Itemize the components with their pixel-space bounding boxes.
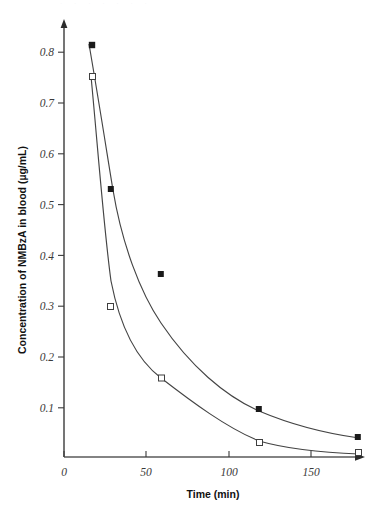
data-point-open <box>356 450 362 456</box>
y-tick-label: 0.1 <box>40 402 54 414</box>
open-square-markers <box>90 74 362 456</box>
data-point-open <box>257 440 263 446</box>
filled-square-markers <box>89 42 361 440</box>
data-point-open <box>90 74 96 80</box>
data-point-filled <box>256 406 262 412</box>
y-axis-title: Concentration of NMBzA in blood (µg/mL) <box>16 146 28 354</box>
y-tick-label: 0.6 <box>40 148 55 160</box>
x-axis-ticks: 0 50 100 150 <box>61 451 320 478</box>
filled-series-fit-curve <box>89 44 359 438</box>
data-point-filled <box>158 271 164 277</box>
x-axis-title: Time (min) <box>187 488 240 500</box>
x-tick-label: 0 <box>61 466 67 478</box>
figure-panel: · · · · · · · 0.8 0.7 0.6 0.5 <box>0 0 380 517</box>
data-point-filled <box>89 42 95 48</box>
data-point-open <box>159 375 165 381</box>
data-point-open <box>108 304 114 310</box>
y-tick-label: 0.5 <box>40 199 55 211</box>
y-tick-label: 0.8 <box>40 46 55 58</box>
open-series-fit-curve <box>91 76 359 454</box>
y-tick-label: 0.3 <box>40 300 55 312</box>
y-tick-label: 0.4 <box>40 250 55 262</box>
y-tick-label: 0.2 <box>40 351 55 363</box>
fit-curves-group <box>89 44 359 454</box>
chart-svg: 0.8 0.7 0.6 0.5 0.4 0.3 0.2 0.1 0 50 100… <box>0 0 380 517</box>
x-tick-label: 50 <box>140 466 152 478</box>
y-tick-label: 0.7 <box>40 97 56 109</box>
y-axis-arrowhead <box>61 19 68 28</box>
x-tick-label: 100 <box>220 466 238 478</box>
y-axis-ticks: 0.8 0.7 0.6 0.5 0.4 0.3 0.2 0.1 <box>40 46 64 414</box>
x-tick-label: 150 <box>302 466 320 478</box>
data-point-filled <box>355 434 361 440</box>
data-point-filled <box>108 186 114 192</box>
